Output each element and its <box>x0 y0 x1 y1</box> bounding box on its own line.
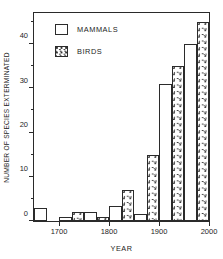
legend-label-mammals: MAMMALS <box>77 25 118 34</box>
open-square-swatch-icon <box>55 24 68 35</box>
y-axis-tick <box>31 21 34 22</box>
bar-birds-1950 <box>197 22 210 221</box>
bar-birds-1700 <box>72 212 85 221</box>
y-axis-tick-label: 0 <box>24 210 28 218</box>
x-axis-tick <box>159 221 160 226</box>
legend-item-birds: BIRDS <box>55 46 118 57</box>
bar-mammals-1850 <box>134 214 147 221</box>
y-axis-tick <box>31 65 34 66</box>
bar-mammals-1900 <box>159 84 172 221</box>
bar-birds-1850 <box>147 155 160 221</box>
clipped-header-artifact <box>0 0 223 7</box>
y-axis-tick-label: 10 <box>20 165 28 173</box>
y-axis-tick <box>29 132 34 133</box>
y-axis-title: NUMBER OF SPECIES EXTERMINATED <box>1 12 12 222</box>
y-axis-tick <box>31 109 34 110</box>
y-axis-tick <box>31 198 34 199</box>
y-axis-tick-label: 30 <box>20 77 28 85</box>
bar-birds-1800 <box>122 190 135 221</box>
bar-mammals-1700 <box>59 217 72 221</box>
x-axis-tick <box>109 221 110 226</box>
x-axis-tick-label: 1800 <box>101 228 118 236</box>
y-axis-tick <box>29 220 34 221</box>
bar-birds-1750 <box>97 217 110 221</box>
x-axis-tick-label: 1900 <box>151 228 168 236</box>
bar-birds-1900 <box>172 66 185 221</box>
legend-item-mammals: MAMMALS <box>55 24 118 35</box>
bar-mammals-1950 <box>184 44 197 221</box>
x-axis-title: YEAR <box>33 244 210 253</box>
bar-mammals-1650 <box>34 208 47 221</box>
bar-mammals-1800 <box>109 206 122 221</box>
y-axis-tick <box>29 87 34 88</box>
species-extermination-bar-chart: NUMBER OF SPECIES EXTERMINATED 010203040… <box>0 0 223 259</box>
legend: MAMMALS BIRDS <box>55 24 118 68</box>
y-axis-tick-label: 20 <box>20 121 28 129</box>
y-axis-tick <box>29 176 34 177</box>
x-axis-tick <box>59 221 60 226</box>
y-axis-tick <box>31 154 34 155</box>
bar-mammals-1750 <box>84 212 97 221</box>
stippled-square-swatch-icon <box>55 46 68 57</box>
x-axis-tick-label: 1700 <box>51 228 68 236</box>
x-axis-tick-label: 2000 <box>201 228 218 236</box>
y-axis-tick <box>29 43 34 44</box>
y-axis-title-text: NUMBER OF SPECIES EXTERMINATED <box>3 52 10 182</box>
x-axis-tick <box>209 221 210 226</box>
y-axis-tick-label: 40 <box>20 33 28 41</box>
legend-label-birds: BIRDS <box>77 47 102 56</box>
